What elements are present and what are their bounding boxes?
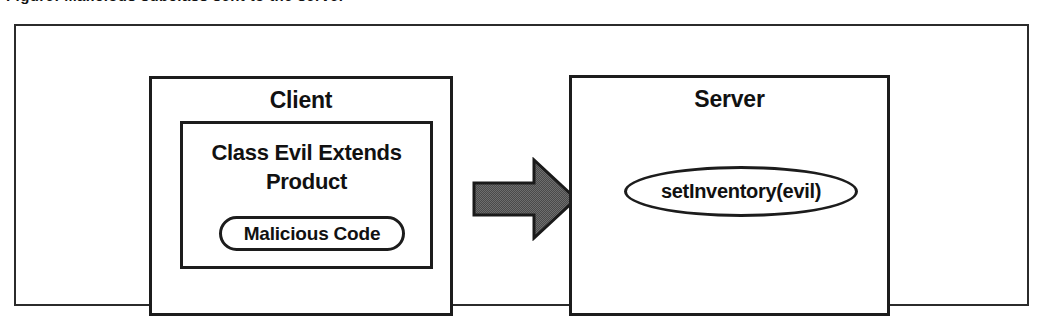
client-title: Client [152, 87, 450, 114]
server-title: Server [572, 86, 887, 113]
client-class-label: Class Evil Extends Product [183, 138, 430, 196]
diagram-outer-frame: Client Class Evil Extends Product Malici… [14, 24, 1029, 306]
right-arrow-icon [472, 157, 578, 241]
figure-caption-clipped: Figure: Malicious subclass sent to the s… [0, 0, 1041, 5]
figure-canvas: Figure: Malicious subclass sent to the s… [0, 0, 1041, 328]
set-inventory-call-shape: setInventory(evil) [624, 166, 858, 217]
malicious-code-shape: Malicious Code [219, 216, 405, 251]
